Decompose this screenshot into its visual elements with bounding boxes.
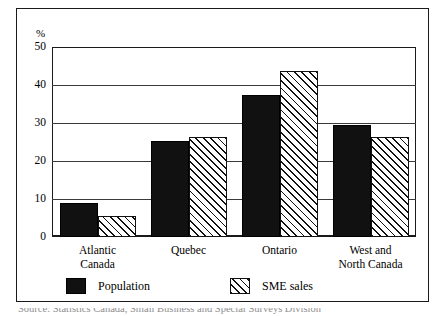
x-axis-label-line: West and	[325, 243, 416, 257]
bar-sme-sales	[371, 137, 409, 237]
caption-text: Source: Statistics Canada, Small Busines…	[18, 308, 321, 314]
bar-sme-sales	[280, 71, 318, 237]
bar-population	[151, 141, 189, 237]
x-axis-label: West andNorth Canada	[325, 243, 416, 271]
plot-area	[52, 47, 416, 237]
legend-entry: SME sales	[230, 278, 313, 294]
bar-group	[234, 47, 325, 237]
x-axis-label-line: North Canada	[325, 257, 416, 271]
x-axis-label-line: Quebec	[143, 243, 234, 257]
solid-black-swatch	[66, 278, 86, 294]
x-axis-label: Ontario	[234, 243, 325, 257]
x-axis-category-labels: AtlanticCanadaQuebecOntarioWest andNorth…	[52, 243, 416, 277]
x-axis-label-line: Ontario	[234, 243, 325, 257]
y-axis-tick-40: 40	[4, 79, 46, 91]
y-axis-tick-50: 50	[4, 41, 46, 53]
x-axis-label-line: Canada	[52, 257, 143, 271]
bar-sme-sales	[98, 216, 136, 237]
hatched-swatch	[230, 278, 250, 294]
caption-cutoff: Source: Statistics Canada, Small Busines…	[18, 308, 438, 316]
bar-chart-figure: % 01020304050 AtlanticCanadaQuebecOntari…	[0, 0, 445, 316]
chart-legend: PopulationSME sales	[52, 278, 416, 300]
y-axis-tick-0: 0	[4, 231, 46, 243]
legend-entry: Population	[66, 278, 150, 294]
bar-group	[52, 47, 143, 237]
bar-group	[143, 47, 234, 237]
bar-population	[242, 95, 280, 237]
y-axis-tick-20: 20	[4, 155, 46, 167]
x-axis-label: AtlanticCanada	[52, 243, 143, 271]
bar-population	[333, 125, 371, 237]
bar-group	[325, 47, 416, 237]
legend-label: Population	[98, 280, 150, 292]
y-axis-tick-10: 10	[4, 193, 46, 205]
bar-population	[60, 203, 98, 237]
y-axis-unit-label: %	[36, 28, 45, 39]
x-axis-label-line: Atlantic	[52, 243, 143, 257]
legend-label: SME sales	[262, 280, 313, 292]
x-axis-label: Quebec	[143, 243, 234, 257]
y-axis-tick-30: 30	[4, 117, 46, 129]
bar-sme-sales	[189, 137, 227, 237]
y-axis-tick-labels: 01020304050	[0, 47, 46, 237]
